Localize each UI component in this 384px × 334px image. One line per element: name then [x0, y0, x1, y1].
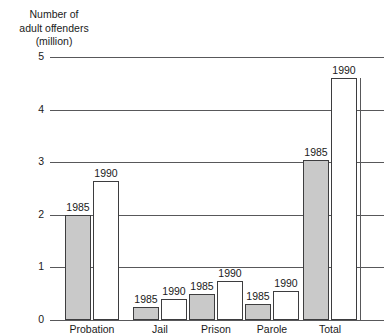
- bar-label-total-1985: 1985: [299, 146, 333, 158]
- y-tick-label-3: 3: [22, 155, 44, 167]
- bar-parole-1985: [245, 304, 271, 320]
- bar-label-parole-1985: 1985: [241, 290, 275, 302]
- y-tick-label-2: 2: [22, 208, 44, 220]
- gridline-5: [50, 57, 384, 58]
- bar-jail-1990: [161, 299, 187, 320]
- y-tick-label-5: 5: [22, 50, 44, 62]
- bar-label-probation-1990: 1990: [89, 167, 123, 179]
- bar-label-prison-1990: 1990: [213, 267, 247, 279]
- y-axis-title-line-2: adult offenders: [0, 22, 108, 36]
- bar-prison-1985: [189, 294, 215, 320]
- bar-label-parole-1990: 1990: [269, 277, 303, 289]
- y-axis-title-line-1: Number of: [0, 8, 108, 22]
- bar-total-1990: [331, 78, 357, 320]
- bar-prison-1990: [217, 281, 243, 320]
- y-tick-label-1: 1: [22, 260, 44, 272]
- bar-total-1985: [303, 160, 329, 320]
- bar-probation-1985: [65, 215, 91, 320]
- bar-probation-1990: [93, 181, 119, 320]
- bar-parole-1990: [273, 291, 299, 320]
- bar-label-prison-1985: 1985: [185, 280, 219, 292]
- x-axis-baseline: [50, 320, 384, 321]
- y-tick-label-0: 0: [22, 313, 44, 325]
- y-axis-title-line-3: (million): [0, 35, 108, 49]
- right-axis-spine: [360, 78, 361, 320]
- x-category-label-total: Total: [290, 323, 370, 334]
- bar-chart: Number of adult offenders (million) 0123…: [0, 0, 384, 334]
- y-axis-title: Number of adult offenders (million): [0, 8, 108, 49]
- bar-label-total-1990: 1990: [327, 64, 361, 76]
- bar-label-probation-1985: 1985: [61, 201, 95, 213]
- y-tick-label-4: 4: [22, 103, 44, 115]
- bar-jail-1985: [133, 307, 159, 320]
